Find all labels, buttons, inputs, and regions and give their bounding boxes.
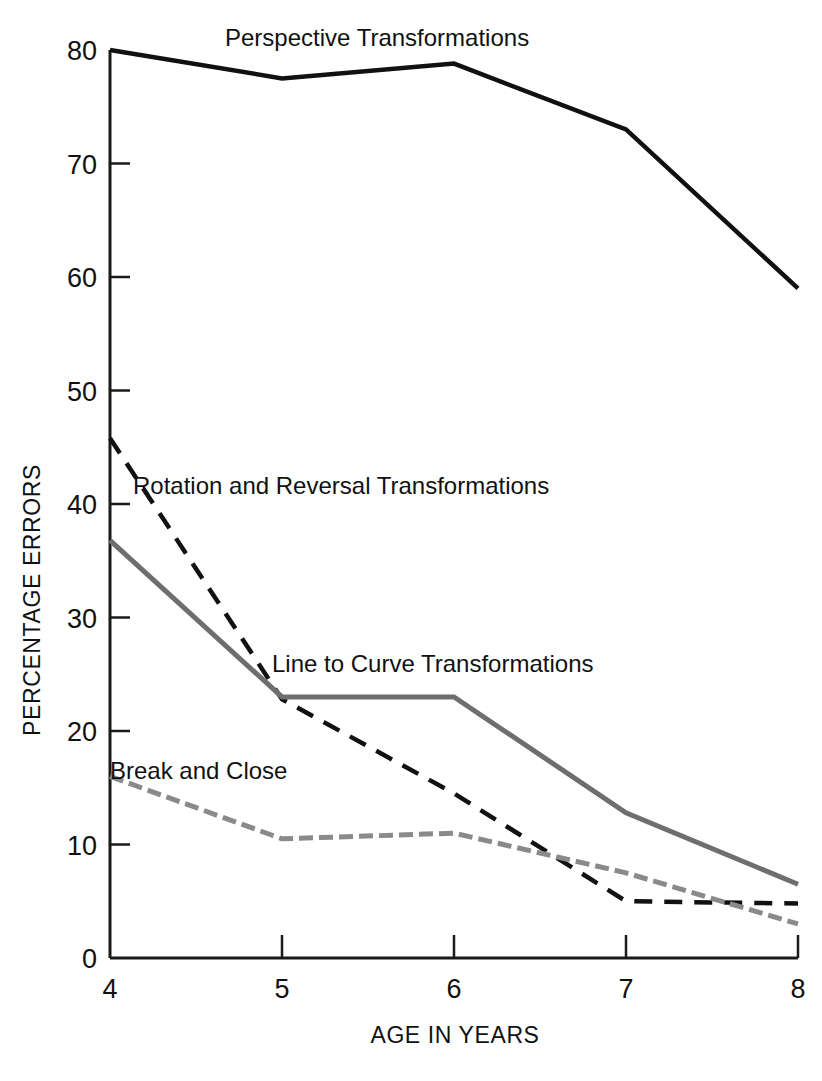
y-tick-label: 60 <box>67 263 97 293</box>
series-line-0 <box>110 50 798 288</box>
axis-group <box>110 50 798 958</box>
series-label-2: Line to Curve Transformations <box>272 650 593 677</box>
line-chart: 01020304050607080 45678 PERCENTAGE ERROR… <box>0 0 822 1081</box>
y-axis-title: PERCENTAGE ERRORS <box>19 464 45 736</box>
y-tick-label: 10 <box>67 831 97 861</box>
y-tick-label: 70 <box>67 150 97 180</box>
y-tick-label: 80 <box>67 36 97 66</box>
series-label-3: Break and Close <box>110 757 287 784</box>
x-axis-title: AGE IN YEARS <box>370 1022 539 1048</box>
series-label-group: Perspective TransformationsRotation and … <box>110 24 593 784</box>
x-tick-label: 7 <box>618 974 633 1004</box>
x-tick-label: 5 <box>274 974 289 1004</box>
y-tick-label: 40 <box>67 490 97 520</box>
series-label-0: Perspective Transformations <box>225 24 529 51</box>
x-tick-group: 45678 <box>102 935 805 1004</box>
x-tick-label: 8 <box>790 974 805 1004</box>
y-tick-group: 01020304050607080 <box>67 36 130 974</box>
y-tick-label: 30 <box>67 604 97 634</box>
chart-container: 01020304050607080 45678 PERCENTAGE ERROR… <box>0 0 822 1081</box>
x-tick-label: 6 <box>446 974 461 1004</box>
y-tick-label: 50 <box>67 377 97 407</box>
y-tick-label: 20 <box>67 717 97 747</box>
y-tick-label: 0 <box>82 944 97 974</box>
series-label-1: Rotation and Reversal Transformations <box>133 472 549 499</box>
x-tick-label: 4 <box>102 974 117 1004</box>
